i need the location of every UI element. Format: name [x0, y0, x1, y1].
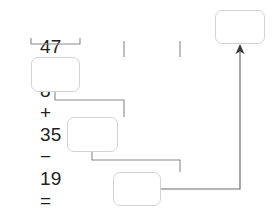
equation-term-1: 47 [40, 36, 62, 58]
final-result-box[interactable] [215, 10, 265, 44]
equation-operator-3: − [40, 146, 51, 168]
arrowhead-into-result-box [236, 44, 245, 54]
step2-answer-box[interactable] [67, 117, 118, 152]
wire-step2-to-step3 [92, 152, 180, 172]
math-worksheet-canvas: 47 − 8 + 35 − 19 = [0, 0, 274, 222]
equation-expression: 47 − 8 + 35 − 19 = [18, 14, 61, 222]
step3-answer-box[interactable] [113, 172, 161, 206]
equation-operator-2: + [40, 102, 51, 124]
wire-step1-to-step2 [55, 92, 124, 117]
equation-term-4: 19 [40, 168, 62, 190]
equation-term-3: 35 [40, 124, 62, 146]
step1-answer-box[interactable] [31, 57, 80, 92]
wire-step3-to-result [161, 52, 240, 189]
equals-sign: = [40, 190, 51, 212]
